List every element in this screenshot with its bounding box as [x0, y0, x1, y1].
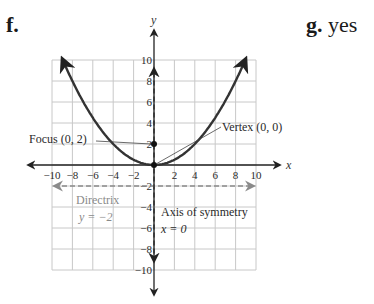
svg-text:−6: −6: [87, 169, 99, 181]
svg-text:−6: −6: [140, 222, 152, 234]
svg-text:10: 10: [251, 169, 263, 181]
svg-text:2: 2: [172, 169, 178, 181]
svg-text:8: 8: [233, 169, 239, 181]
focus-point: [151, 141, 157, 147]
svg-text:4: 4: [192, 169, 198, 181]
svg-text:10: 10: [141, 54, 153, 66]
directrix-equation: y = −2: [78, 210, 113, 224]
svg-text:−4: −4: [107, 169, 119, 181]
svg-text:−10: −10: [135, 264, 153, 276]
focus-label: Focus (0, 2): [29, 132, 87, 146]
axes: xy: [28, 13, 292, 295]
axis-of-symmetry-equation: x = 0: [160, 222, 186, 236]
svg-text:8: 8: [147, 75, 153, 87]
x-axis-label: x: [285, 158, 292, 172]
directrix-title: Directrix: [76, 193, 119, 207]
axis-of-symmetry-title: Axis of symmetry: [161, 205, 248, 219]
parabola-graph: xy −10−8−6−4−2246810108642−2−4−6−8−10 Fo…: [0, 0, 374, 304]
svg-text:−8: −8: [67, 169, 79, 181]
svg-text:4: 4: [147, 117, 153, 129]
svg-text:−8: −8: [140, 243, 152, 255]
svg-text:6: 6: [147, 96, 153, 108]
svg-text:−2: −2: [128, 169, 140, 181]
y-axis-label: y: [150, 13, 157, 27]
svg-text:6: 6: [212, 169, 218, 181]
vertex-point: [151, 162, 157, 168]
svg-text:−10: −10: [43, 169, 61, 181]
vertex-label: Vertex (0, 0): [222, 120, 282, 134]
svg-text:−4: −4: [140, 201, 152, 213]
